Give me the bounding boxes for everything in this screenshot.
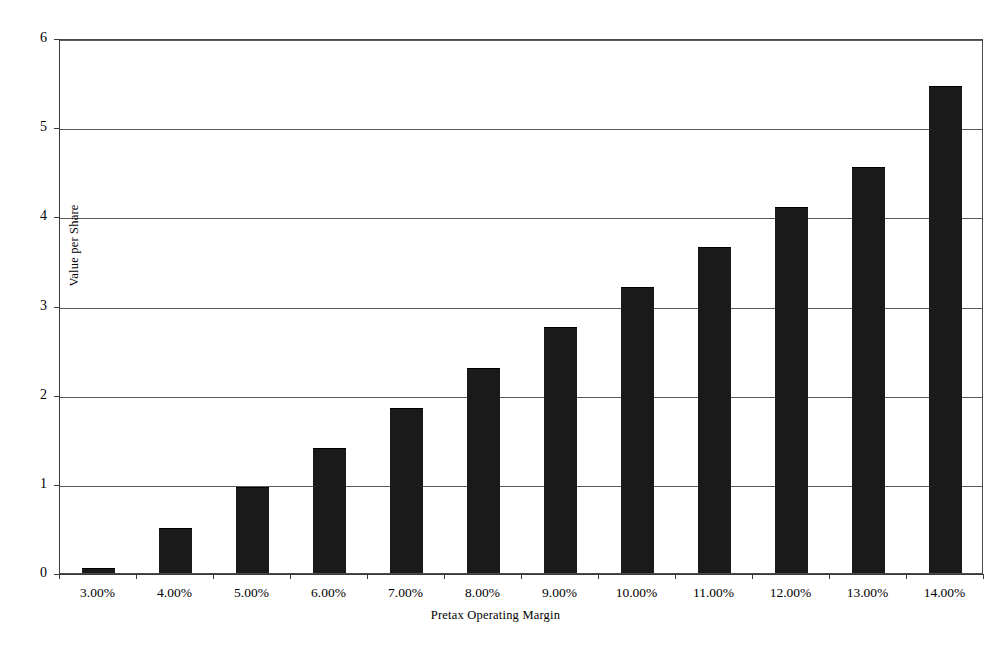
x-tick-mark: [598, 574, 599, 579]
gridline: [60, 218, 982, 219]
bar: [852, 167, 885, 573]
gridline: [60, 129, 982, 130]
bar: [390, 408, 423, 573]
gridline: [60, 40, 982, 41]
x-tick-mark: [213, 574, 214, 579]
x-tick-label: 11.00%: [674, 585, 754, 601]
y-tick-mark: [54, 485, 59, 486]
x-axis-title: Pretax Operating Margin: [0, 608, 991, 623]
plot-area: [59, 39, 983, 574]
y-tick-mark: [54, 396, 59, 397]
x-tick-label: 8.00%: [443, 585, 523, 601]
chart-figure: 0123456 Value per Share 3.00%4.00%5.00%6…: [0, 0, 991, 652]
x-tick-mark: [136, 574, 137, 579]
bar: [159, 528, 192, 573]
y-axis-line: [59, 39, 60, 575]
bar: [929, 86, 962, 573]
x-tick-label: 13.00%: [828, 585, 908, 601]
y-tick-mark: [54, 307, 59, 308]
x-tick-label: 3.00%: [58, 585, 138, 601]
bar: [775, 207, 808, 573]
y-tick-label: 4: [13, 209, 47, 223]
x-tick-label: 5.00%: [212, 585, 292, 601]
bar: [698, 247, 731, 573]
y-axis-title: Value per Share: [67, 166, 82, 326]
x-tick-label: 4.00%: [135, 585, 215, 601]
y-tick-label: 6: [13, 31, 47, 45]
bar: [544, 327, 577, 573]
bar: [236, 487, 269, 573]
x-tick-label: 9.00%: [520, 585, 600, 601]
y-tick-mark: [54, 39, 59, 40]
bar: [82, 568, 115, 573]
bar: [621, 287, 654, 573]
x-tick-mark: [983, 574, 984, 579]
x-tick-mark: [59, 574, 60, 579]
x-tick-mark: [367, 574, 368, 579]
y-tick-mark: [54, 128, 59, 129]
bar: [313, 448, 346, 573]
x-tick-mark: [675, 574, 676, 579]
x-tick-label: 10.00%: [597, 585, 677, 601]
y-tick-label: 5: [13, 120, 47, 134]
x-tick-label: 14.00%: [905, 585, 985, 601]
x-tick-mark: [752, 574, 753, 579]
y-tick-label: 0: [13, 566, 47, 580]
y-tick-label: 1: [13, 477, 47, 491]
x-tick-label: 6.00%: [289, 585, 369, 601]
x-tick-mark: [290, 574, 291, 579]
y-tick-label: 2: [13, 388, 47, 402]
gridline: [60, 397, 982, 398]
x-tick-mark: [906, 574, 907, 579]
x-tick-mark: [521, 574, 522, 579]
x-tick-mark: [829, 574, 830, 579]
x-tick-label: 12.00%: [751, 585, 831, 601]
y-tick-mark: [54, 217, 59, 218]
gridline: [60, 308, 982, 309]
gridline: [60, 486, 982, 487]
bar: [467, 368, 500, 573]
x-tick-mark: [444, 574, 445, 579]
x-tick-label: 7.00%: [366, 585, 446, 601]
y-tick-label: 3: [13, 299, 47, 313]
